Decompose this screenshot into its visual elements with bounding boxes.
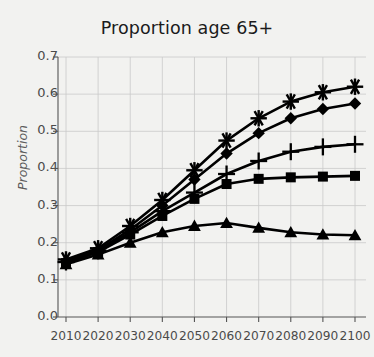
data-point-plus [282, 143, 299, 160]
data-point-diamond [285, 112, 297, 124]
data-point-diamond [317, 103, 329, 115]
data-point-plus [250, 153, 267, 170]
data-point-diamond [252, 127, 264, 139]
data-point-square [222, 179, 232, 189]
data-point-asterisk [347, 79, 363, 95]
data-point-asterisk [250, 110, 266, 126]
data-point-square [254, 174, 264, 184]
data-point-diamond [349, 97, 361, 109]
data-point-asterisk [283, 93, 299, 109]
data-point-plus [347, 136, 364, 153]
data-point-square [157, 211, 167, 221]
chart-container: Proportion age 65+ Proportion 0.00.10.20… [0, 0, 374, 357]
plot-area [0, 0, 374, 357]
data-point-square [318, 172, 328, 182]
series-square [61, 171, 360, 268]
data-point-asterisk [315, 84, 331, 100]
data-point-plus [314, 138, 331, 155]
data-point-square [189, 194, 199, 204]
data-point-square [286, 172, 296, 182]
data-point-square [350, 171, 360, 181]
